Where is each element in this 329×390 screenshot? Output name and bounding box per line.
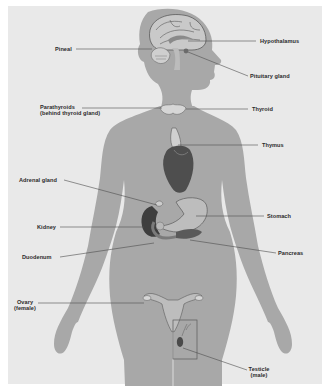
- label-pituitary-gland: Pituitary gland: [250, 73, 290, 79]
- endocrine-system-diagram: Pineal Hypothalamus Pituitary gland Para…: [0, 0, 329, 390]
- label-adrenal-gland: Adrenal gland: [19, 177, 57, 183]
- label-hypothalamus: Hypothalamus: [260, 38, 299, 44]
- label-pancreas: Pancreas: [278, 250, 303, 256]
- thyroid-gland: [160, 104, 186, 114]
- label-parathyroids: Parathyroids (behind thyroid gland): [40, 104, 100, 117]
- ovary-left: [143, 296, 151, 301]
- label-kidney: Kidney: [37, 224, 56, 230]
- pituitary-gland: [184, 49, 189, 54]
- label-ovary-line2: (female): [12, 305, 38, 311]
- label-testicle-line2: (male): [245, 372, 273, 378]
- label-thymus: Thymus: [262, 142, 284, 148]
- ovary-right: [195, 296, 203, 301]
- label-testicle: Testicle (male): [245, 366, 273, 379]
- testicle: [177, 337, 183, 347]
- label-ovary: Ovary (female): [12, 299, 38, 312]
- anatomy-illustration: [0, 0, 329, 390]
- label-pineal: Pineal: [55, 46, 72, 52]
- label-stomach: Stomach: [267, 213, 291, 219]
- label-duodenum: Duodenum: [22, 254, 52, 260]
- label-parathyroids-line2: (behind thyroid gland): [40, 110, 100, 116]
- label-thyroid: Thyroid: [252, 106, 273, 112]
